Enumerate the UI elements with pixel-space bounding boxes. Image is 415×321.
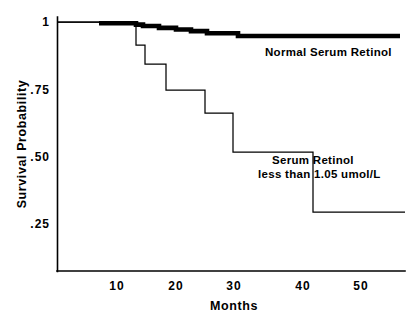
y-tick-label-050: .50: [30, 150, 50, 164]
x-tick-label-40: 40: [295, 279, 310, 293]
y-axis-title: Survival Probability: [15, 80, 29, 209]
y-tick-labels: 1 .75 .50 .25: [30, 15, 50, 231]
y-tick-label-025: .25: [30, 217, 50, 231]
kaplan-meier-plot: 1 .75 .50 .25 10 20 30 40 50 Months Surv…: [0, 0, 415, 321]
survival-curve-figure: 1 .75 .50 .25 10 20 30 40 50 Months Surv…: [0, 0, 415, 321]
x-axis-title: Months: [210, 299, 258, 313]
x-tick-label-50: 50: [353, 279, 368, 293]
x-tick-label-30: 30: [226, 279, 241, 293]
annotation-normal-serum-retinol: Normal Serum Retinol: [265, 46, 392, 58]
y-tick-label-1: 1: [42, 15, 50, 29]
x-tick-label-20: 20: [168, 279, 183, 293]
series-normal-serum-retinol-curve: [99, 23, 400, 36]
annotation-low-serum-retinol-line2: less than 1.05 umol/L: [258, 168, 381, 180]
y-tick-label-075: .75: [30, 83, 50, 97]
x-tick-label-10: 10: [109, 279, 124, 293]
x-tick-labels: 10 20 30 40 50: [109, 279, 368, 293]
annotation-low-serum-retinol-line1: Serum Retinol: [272, 154, 354, 166]
